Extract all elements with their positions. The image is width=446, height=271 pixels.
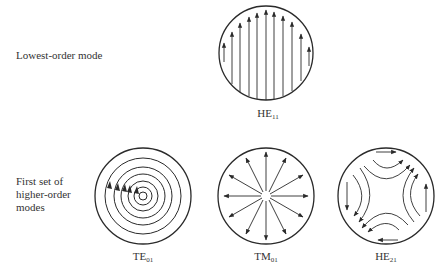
tm01-radial-arrows-icon bbox=[224, 152, 308, 240]
tm01-diagram bbox=[218, 148, 314, 244]
mode-diagrams bbox=[0, 0, 446, 271]
he21-fiber-core-icon bbox=[338, 148, 434, 244]
he21-field-lines-icon bbox=[347, 152, 426, 240]
he11-label: HE11 bbox=[238, 107, 298, 121]
te01-label: TE01 bbox=[113, 250, 173, 264]
te01-label-sub: 01 bbox=[146, 256, 153, 264]
te01-diagram bbox=[95, 148, 191, 244]
he11-label-sub: 11 bbox=[272, 113, 279, 121]
he21-label-base: HE bbox=[375, 250, 390, 262]
te01-fiber-core-icon bbox=[95, 148, 191, 244]
he21-label: HE21 bbox=[356, 250, 416, 264]
tm01-label-base: TM bbox=[254, 250, 271, 262]
he11-diagram bbox=[219, 6, 313, 100]
tm01-label: TM01 bbox=[236, 250, 296, 264]
tm01-label-sub: 01 bbox=[271, 256, 278, 264]
he11-field-arrows-icon bbox=[224, 10, 309, 100]
te01-concentric-field-icon bbox=[105, 158, 181, 234]
he11-label-base: HE bbox=[257, 107, 272, 119]
he21-label-sub: 21 bbox=[390, 256, 397, 264]
he21-diagram bbox=[338, 148, 434, 244]
te01-label-base: TE bbox=[133, 250, 146, 262]
